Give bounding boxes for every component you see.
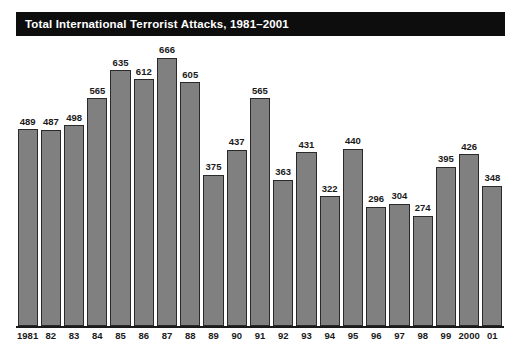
x-tick-label: 87 <box>155 330 178 342</box>
x-tick-label: 86 <box>132 330 155 342</box>
plot-area: 4894874985656356126666053754375653634313… <box>16 44 504 328</box>
chart-figure: Total International Terrorist Attacks, 1… <box>0 0 520 357</box>
bar <box>459 154 479 326</box>
bar-value-label: 605 <box>182 70 198 80</box>
bar-group: 296 <box>366 44 386 326</box>
x-tick-label: 99 <box>434 330 457 342</box>
x-tick-label: 93 <box>295 330 318 342</box>
bar-value-label: 498 <box>66 113 82 123</box>
bar-value-label: 304 <box>391 191 407 201</box>
x-tick-label: 82 <box>39 330 62 342</box>
bar-group: 375 <box>203 44 223 326</box>
x-tick-label: 96 <box>365 330 388 342</box>
x-tick-label: 92 <box>272 330 295 342</box>
bar-value-label: 296 <box>368 194 384 204</box>
x-tick-label: 94 <box>318 330 341 342</box>
bar <box>296 152 316 326</box>
bar-value-label: 666 <box>159 45 175 55</box>
bar <box>203 175 223 326</box>
bars-layer: 4894874985656356126666053754375653634313… <box>16 44 504 326</box>
bar <box>320 196 340 326</box>
bar-group: 605 <box>180 44 200 326</box>
bar <box>227 150 247 326</box>
x-tick-label: 83 <box>62 330 85 342</box>
x-tick-label: 84 <box>86 330 109 342</box>
bar <box>250 98 270 326</box>
x-tick-label: 91 <box>248 330 271 342</box>
chart-title-banner: Total International Terrorist Attacks, 1… <box>16 12 505 36</box>
bar-value-label: 635 <box>113 58 129 68</box>
bar-value-label: 322 <box>322 184 338 194</box>
bar <box>41 130 61 326</box>
bar-group: 437 <box>227 44 247 326</box>
x-tick-label: 01 <box>481 330 504 342</box>
bar-group: 363 <box>273 44 293 326</box>
bar-group: 426 <box>459 44 479 326</box>
bar-group: 635 <box>110 44 130 326</box>
bar-group: 498 <box>64 44 84 326</box>
bar-group: 565 <box>87 44 107 326</box>
bar-group: 487 <box>41 44 61 326</box>
bar-value-label: 375 <box>206 162 222 172</box>
x-tick-label: 90 <box>225 330 248 342</box>
x-tick-label: 2000 <box>458 330 481 342</box>
x-tick-label: 88 <box>179 330 202 342</box>
bar <box>389 204 409 326</box>
bar <box>482 186 502 326</box>
bar-group: 489 <box>18 44 38 326</box>
bar-value-label: 489 <box>20 117 36 127</box>
bar-group: 348 <box>482 44 502 326</box>
bar <box>157 58 177 326</box>
bar-group: 322 <box>320 44 340 326</box>
bar-group: 274 <box>413 44 433 326</box>
x-tick-label: 95 <box>341 330 364 342</box>
bar-value-label: 565 <box>252 86 268 96</box>
bar-value-label: 348 <box>484 173 500 183</box>
bar-value-label: 431 <box>299 140 315 150</box>
bar-value-label: 363 <box>275 167 291 177</box>
x-tick-label: 89 <box>202 330 225 342</box>
bar-value-label: 612 <box>136 67 152 77</box>
bar <box>64 125 84 326</box>
bar <box>436 167 456 326</box>
bar <box>134 79 154 326</box>
bar-value-label: 395 <box>438 154 454 164</box>
x-tick-label: 1981 <box>16 330 39 342</box>
bar <box>366 207 386 326</box>
bar <box>413 216 433 326</box>
bar-value-label: 437 <box>229 137 245 147</box>
bar <box>180 82 200 326</box>
bar-group: 565 <box>250 44 270 326</box>
bar-value-label: 440 <box>345 136 361 146</box>
bar-value-label: 565 <box>89 86 105 96</box>
bar <box>110 70 130 326</box>
x-tick-label: 85 <box>109 330 132 342</box>
bar <box>18 129 38 326</box>
bar-value-label: 274 <box>415 203 431 213</box>
bar-group: 304 <box>389 44 409 326</box>
page-title: Total International Terrorist Attacks, 1… <box>16 18 289 30</box>
x-axis-tick-labels: 1981828384858687888990919293949596979899… <box>16 330 504 346</box>
bar <box>87 98 107 326</box>
bar-value-label: 426 <box>461 142 477 152</box>
bar-group: 666 <box>157 44 177 326</box>
bar-value-label: 487 <box>43 117 59 127</box>
x-tick-label: 98 <box>411 330 434 342</box>
bar <box>343 149 363 326</box>
bar <box>273 180 293 326</box>
bar-group: 612 <box>134 44 154 326</box>
x-axis-line <box>16 326 504 328</box>
x-tick-label: 97 <box>388 330 411 342</box>
bar-group: 440 <box>343 44 363 326</box>
bar-group: 431 <box>296 44 316 326</box>
bar-group: 395 <box>436 44 456 326</box>
